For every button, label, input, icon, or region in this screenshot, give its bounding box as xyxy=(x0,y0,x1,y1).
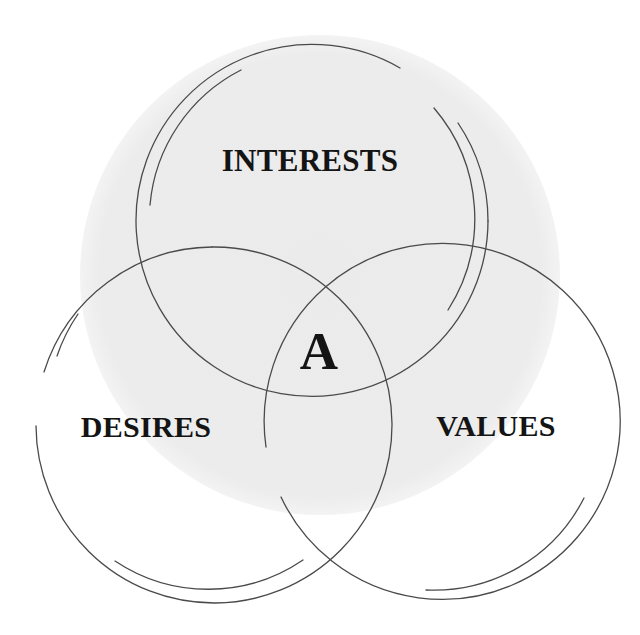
venn-diagram: INTERESTS DESIRES VALUES A xyxy=(0,0,640,635)
venn-graphic xyxy=(0,0,640,635)
background-disc xyxy=(80,35,560,515)
label-values: VALUES xyxy=(436,411,556,441)
label-center-intersection: A xyxy=(300,325,339,378)
label-desires: DESIRES xyxy=(81,412,212,442)
label-interests: INTERESTS xyxy=(222,145,399,176)
